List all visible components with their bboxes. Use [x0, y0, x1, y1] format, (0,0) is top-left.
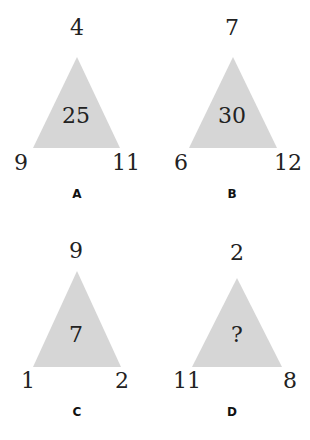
- triangle-b-left-number: 6: [174, 150, 188, 175]
- triangle-c-right-number: 2: [115, 368, 129, 393]
- triangle-d-top-number: 2: [230, 240, 244, 265]
- triangle-a-center-number: 25: [62, 103, 90, 128]
- triangle-c-center-number: 7: [69, 322, 83, 347]
- triangle-b-right-number: 12: [274, 150, 302, 175]
- triangle-group-d: 2 ? 11 8 D: [173, 240, 297, 419]
- triangle-a-top-number: 4: [70, 15, 84, 40]
- triangle-b-center-number: 30: [218, 103, 246, 128]
- triangle-d-right-number: 8: [283, 368, 297, 393]
- triangle-puzzle: 4 25 9 11 A 7 30 6 12 B 9 7 1 2 C 2 ? 11…: [0, 0, 310, 440]
- triangle-group-a: 4 25 9 11 A: [14, 15, 140, 201]
- triangle-d-left-number: 11: [173, 368, 201, 393]
- triangle-group-b: 7 30 6 12 B: [174, 15, 302, 201]
- triangle-a-label: A: [72, 187, 82, 201]
- triangle-c: [33, 271, 121, 367]
- triangle-group-c: 9 7 1 2 C: [21, 238, 129, 419]
- triangle-c-label: C: [73, 405, 82, 419]
- triangle-d-label: D: [227, 405, 237, 419]
- triangle-c-left-number: 1: [21, 368, 35, 393]
- triangle-c-top-number: 9: [69, 238, 83, 263]
- triangle-a-left-number: 9: [14, 150, 28, 175]
- triangle-a-right-number: 11: [112, 150, 140, 175]
- triangle-b-label: B: [227, 187, 236, 201]
- triangle-d-center-number: ?: [231, 322, 243, 347]
- triangle-b-top-number: 7: [225, 15, 239, 40]
